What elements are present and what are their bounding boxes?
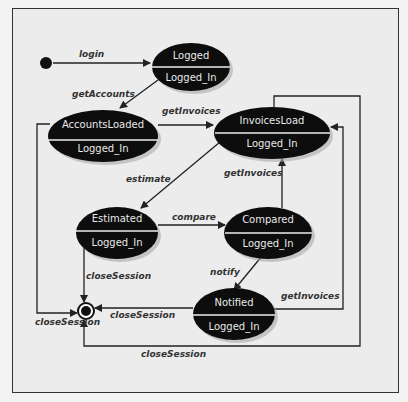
label-estimate: estimate	[126, 174, 171, 184]
state-estimated[interactable]: Estimated Logged_In	[76, 207, 161, 262]
state-substate: Logged_In	[209, 321, 260, 333]
label-close-session-invoices: closeSession	[141, 349, 206, 359]
state-substate: Logged_In	[166, 72, 217, 84]
label-close-session-accounts: closeSession	[35, 317, 100, 327]
state-name: InvoicesLoad	[240, 115, 305, 126]
label-get-invoices-3: getInvoices	[281, 291, 340, 301]
state-notified[interactable]: Notified Logged_In	[193, 288, 278, 343]
label-notify: notify	[210, 267, 241, 277]
state-name: Logged	[173, 50, 210, 61]
label-compare: compare	[172, 212, 216, 222]
initial-state	[40, 57, 52, 69]
state-compared[interactable]: Compared Logged_In	[224, 207, 315, 262]
state-name: Estimated	[92, 213, 143, 224]
state-substate: Logged_In	[247, 138, 298, 150]
label-get-invoices-2: getInvoices	[224, 168, 283, 178]
state-name: Notified	[214, 297, 253, 308]
state-substate: Logged_In	[243, 238, 294, 250]
state-substate: Logged_In	[78, 143, 129, 155]
label-get-accounts: getAccounts	[72, 89, 136, 99]
state-logged[interactable]: Logged Logged_In	[152, 43, 233, 94]
label-close-session-notified: closeSession	[110, 310, 175, 320]
state-name: Compared	[242, 214, 294, 225]
state-diagram: Logged Logged_In AccountsLoaded Logged_I…	[0, 0, 408, 402]
state-substate: Logged_In	[92, 237, 143, 249]
state-name: AccountsLoaded	[62, 119, 144, 130]
state-invoices-load[interactable]: InvoicesLoad Logged_In	[214, 107, 333, 162]
label-close-session-estimated: closeSession	[86, 271, 151, 281]
state-accounts-loaded[interactable]: AccountsLoaded Logged_In	[48, 110, 161, 165]
label-login: login	[79, 49, 104, 59]
label-get-invoices-1: getInvoices	[162, 106, 221, 116]
